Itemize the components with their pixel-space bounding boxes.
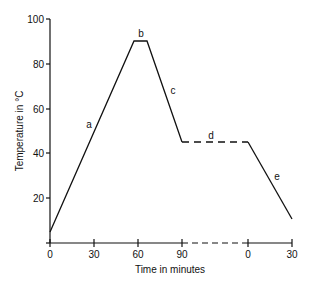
x-tick-0: 0 xyxy=(47,249,53,260)
x-tick-90: 90 xyxy=(176,249,188,260)
y-tick-80: 80 xyxy=(33,59,45,70)
x-tick-30: 30 xyxy=(88,249,100,260)
y-tick-60: 60 xyxy=(33,104,45,115)
x-tick-labels: 0 30 60 90 0 30 xyxy=(47,249,298,260)
segment-label-c: c xyxy=(171,85,176,96)
y-tick-labels: 100 80 60 40 20 xyxy=(27,14,44,204)
segment-label-b: b xyxy=(138,28,144,39)
segment-label-d: d xyxy=(208,130,214,141)
y-tick-40: 40 xyxy=(33,148,45,159)
y-tick-100: 100 xyxy=(27,14,44,25)
temperature-line-solid-1 xyxy=(50,41,182,232)
x-axis-label: Time in minutes xyxy=(135,264,205,275)
x-tick-0-restart: 0 xyxy=(245,249,251,260)
x-tick-30-restart: 30 xyxy=(286,249,298,260)
segment-label-a: a xyxy=(86,119,92,130)
y-tick-20: 20 xyxy=(33,193,45,204)
segment-labels: a b c d e xyxy=(86,28,280,182)
segment-label-e: e xyxy=(274,171,280,182)
temperature-time-chart: 100 80 60 40 20 Temperature in °C 0 30 6… xyxy=(0,0,312,284)
x-tick-60: 60 xyxy=(132,249,144,260)
temperature-line-solid-2 xyxy=(248,142,292,219)
y-axis-label: Temperature in °C xyxy=(14,91,25,172)
